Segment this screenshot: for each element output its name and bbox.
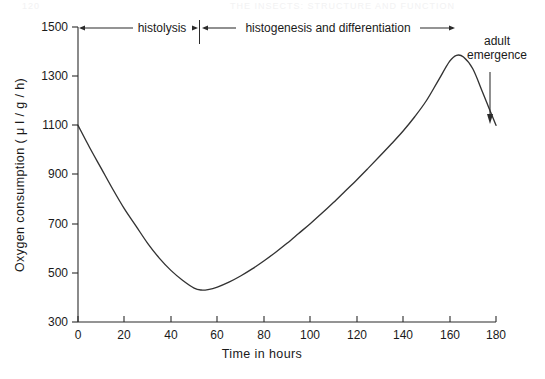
- adult-emergence-arrowhead: [487, 114, 493, 124]
- phase-annotations: histolysis histogenesis and differentiat…: [79, 20, 455, 44]
- histolysis-arrowhead-right: [192, 26, 198, 31]
- y-axis-title: Oxygen consumption ( μ l / g / h): [13, 78, 27, 272]
- x-tick-label-60: 60: [210, 328, 224, 342]
- x-tick-label-100: 100: [300, 328, 320, 342]
- y-tick-label-500: 500: [48, 266, 68, 280]
- x-tick-label-0: 0: [75, 328, 82, 342]
- histolysis-annotation: histolysis: [79, 21, 198, 35]
- chart-svg: 120 THE INSECTS: STRUCTURE AND FUNCTION …: [0, 0, 545, 379]
- x-axis-title: Time in hours: [222, 347, 302, 361]
- y-tick-label-1500: 1500: [41, 20, 68, 34]
- y-axis-ticks: 1500 1300 1100 900 700 500 300: [41, 20, 78, 329]
- x-tick-label-120: 120: [347, 328, 367, 342]
- histolysis-label: histolysis: [138, 21, 187, 35]
- histogenesis-arrowhead-right: [449, 26, 455, 31]
- histogenesis-label: histogenesis and differentiation: [245, 21, 410, 35]
- axes-group: [78, 27, 496, 322]
- running-head-right: THE INSECTS: STRUCTURE AND FUNCTION: [230, 1, 455, 11]
- x-tick-label-140: 140: [393, 328, 413, 342]
- adult-emergence-label-line2: emergence: [467, 48, 527, 62]
- histogenesis-arrowhead-left: [202, 26, 208, 31]
- x-tick-label-180: 180: [486, 328, 506, 342]
- histolysis-arrowhead-left: [79, 26, 85, 31]
- data-series-line: [78, 55, 496, 290]
- y-tick-label-1100: 1100: [42, 118, 68, 132]
- x-tick-label-160: 160: [440, 328, 460, 342]
- y-tick-label-300: 300: [48, 315, 68, 329]
- y-tick-label-1300: 1300: [41, 69, 68, 83]
- y-tick-label-700: 700: [48, 217, 68, 231]
- oxygen-consumption-figure: 120 THE INSECTS: STRUCTURE AND FUNCTION …: [0, 0, 545, 379]
- adult-emergence-annotation: adult emergence: [467, 34, 527, 124]
- running-head-left: 120: [22, 1, 40, 11]
- histogenesis-annotation: histogenesis and differentiation: [202, 21, 455, 35]
- x-tick-label-20: 20: [117, 328, 131, 342]
- x-tick-label-80: 80: [257, 328, 271, 342]
- y-tick-label-900: 900: [48, 167, 68, 181]
- adult-emergence-label-line1: adult: [484, 34, 511, 48]
- x-axis-ticks: 0 20 40 60 80 100 120 140 160 180: [75, 316, 507, 342]
- x-tick-label-40: 40: [164, 328, 178, 342]
